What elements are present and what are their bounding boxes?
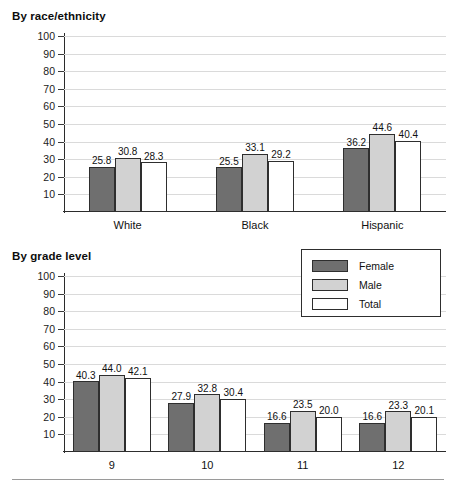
y-tick-label-grade-80: 80 <box>43 306 55 317</box>
x-tick-label-race-Black: Black <box>191 219 318 231</box>
bar-value-label: 40.3 <box>76 371 95 381</box>
bar-race-White-total: 28.3 <box>141 162 167 212</box>
bar-value-label: 16.6 <box>363 412 382 422</box>
bar-grade-11-female: 16.6 <box>264 423 290 452</box>
legend-swatch-female-icon <box>312 260 348 272</box>
bar-value-label: 28.3 <box>144 152 163 162</box>
legend-label: Female <box>359 260 394 272</box>
bar-grade-12-total: 20.1 <box>411 417 437 452</box>
chart-legend: FemaleMaleTotal <box>301 249 441 317</box>
bar-value-label: 20.0 <box>319 406 338 416</box>
bar-value-label: 25.8 <box>92 156 111 166</box>
bar-value-label: 20.1 <box>415 406 434 416</box>
bar-grade-9-male: 44.0 <box>99 375 125 452</box>
bar-grade-10-female: 27.9 <box>168 403 194 452</box>
bar-value-label: 32.8 <box>198 384 217 394</box>
bar-group-race-Black: 25.533.129.2Black <box>191 36 318 212</box>
bar-grade-10-male: 32.8 <box>194 394 220 452</box>
y-tick-label-race-100: 100 <box>37 31 55 42</box>
bars-wrap: 27.932.830.4 <box>160 276 256 452</box>
y-tick-label-grade-10: 10 <box>43 429 55 440</box>
y-tick-label-race-50: 50 <box>43 119 55 130</box>
x-tick-label-grade-12: 12 <box>351 459 447 471</box>
bar-grade-9-total: 42.1 <box>125 378 151 452</box>
y-tick-label-race-80: 80 <box>43 66 55 77</box>
bar-race-Black-female: 25.5 <box>216 167 242 212</box>
y-tick-label-race-70: 70 <box>43 84 55 95</box>
bar-group-grade-9: 40.344.042.19 <box>64 276 160 452</box>
legend-label: Total <box>359 298 381 310</box>
bar-value-label: 25.5 <box>219 157 238 167</box>
bars-wrap: 36.244.640.4 <box>319 36 446 212</box>
bar-value-label: 30.4 <box>224 388 243 398</box>
bar-race-Hispanic-female: 36.2 <box>343 148 369 212</box>
y-tick-label-grade-40: 40 <box>43 376 55 387</box>
bar-race-Black-total: 29.2 <box>268 161 294 212</box>
bar-value-label: 16.6 <box>267 412 286 422</box>
legend-swatch-male-icon <box>312 279 348 291</box>
x-tick-label-grade-10: 10 <box>160 459 256 471</box>
bar-race-Hispanic-male: 44.6 <box>369 134 395 212</box>
bottom-divider <box>12 479 444 480</box>
bar-grade-11-male: 23.5 <box>290 411 316 452</box>
bar-grade-10-total: 30.4 <box>220 399 246 453</box>
bars-wrap: 40.344.042.1 <box>64 276 160 452</box>
bars-wrap: 25.830.828.3 <box>64 36 191 212</box>
bar-race-White-male: 30.8 <box>115 158 141 212</box>
y-tick-label-race-20: 20 <box>43 172 55 183</box>
bar-value-label: 36.2 <box>347 138 366 148</box>
y-tick-label-race-60: 60 <box>43 101 55 112</box>
panel-title-grade: By grade level <box>12 250 91 262</box>
x-tick-label-race-White: White <box>64 219 191 231</box>
bar-value-label: 44.6 <box>373 123 392 133</box>
x-tick-label-grade-11: 11 <box>255 459 351 471</box>
legend-item-total: Total <box>312 294 440 313</box>
y-tick-label-grade-30: 30 <box>43 394 55 405</box>
legend-swatch-total-icon <box>312 298 348 310</box>
bar-group-race-White: 25.830.828.3White <box>64 36 191 212</box>
plot-area-race: 10203040506070809010025.830.828.3White25… <box>64 36 446 212</box>
x-tick-label-grade-9: 9 <box>64 459 160 471</box>
y-tick-label-grade-70: 70 <box>43 324 55 335</box>
panel-race-ethnicity: By race/ethnicity 1020304050607080901002… <box>0 0 456 240</box>
y-tick-label-race-30: 30 <box>43 154 55 165</box>
bar-grade-11-total: 20.0 <box>316 417 342 452</box>
bar-value-label: 42.1 <box>128 367 147 377</box>
panel-title-race: By race/ethnicity <box>12 10 106 22</box>
y-tick-label-race-90: 90 <box>43 48 55 59</box>
y-tick-label-grade-90: 90 <box>43 288 55 299</box>
legend-item-female: Female <box>312 256 440 275</box>
x-tick-label-race-Hispanic: Hispanic <box>319 219 446 231</box>
y-tick-label-race-40: 40 <box>43 136 55 147</box>
y-tick-label-grade-60: 60 <box>43 341 55 352</box>
bar-value-label: 27.9 <box>172 392 191 402</box>
bar-value-label: 23.3 <box>389 401 408 411</box>
bar-grade-9-female: 40.3 <box>73 381 99 452</box>
bar-group-race-Hispanic: 36.244.640.4Hispanic <box>319 36 446 212</box>
legend-label: Male <box>359 279 382 291</box>
bar-value-label: 33.1 <box>245 143 264 153</box>
y-tick-label-grade-100: 100 <box>37 271 55 282</box>
y-tick-label-grade-50: 50 <box>43 359 55 370</box>
bar-grade-12-female: 16.6 <box>359 423 385 452</box>
y-tick-label-grade-20: 20 <box>43 412 55 423</box>
legend-item-male: Male <box>312 275 440 294</box>
bar-value-label: 23.5 <box>293 400 312 410</box>
bar-group-grade-10: 27.932.830.410 <box>160 276 256 452</box>
bar-race-Black-male: 33.1 <box>242 154 268 212</box>
y-tick-label-race-10: 10 <box>43 189 55 200</box>
bars-wrap: 25.533.129.2 <box>191 36 318 212</box>
bar-value-label: 30.8 <box>118 147 137 157</box>
bar-value-label: 29.2 <box>271 150 290 160</box>
bar-grade-12-male: 23.3 <box>385 411 411 452</box>
bar-value-label: 44.0 <box>102 364 121 374</box>
bar-value-label: 40.4 <box>399 130 418 140</box>
bar-race-White-female: 25.8 <box>89 167 115 212</box>
bar-race-Hispanic-total: 40.4 <box>395 141 421 212</box>
